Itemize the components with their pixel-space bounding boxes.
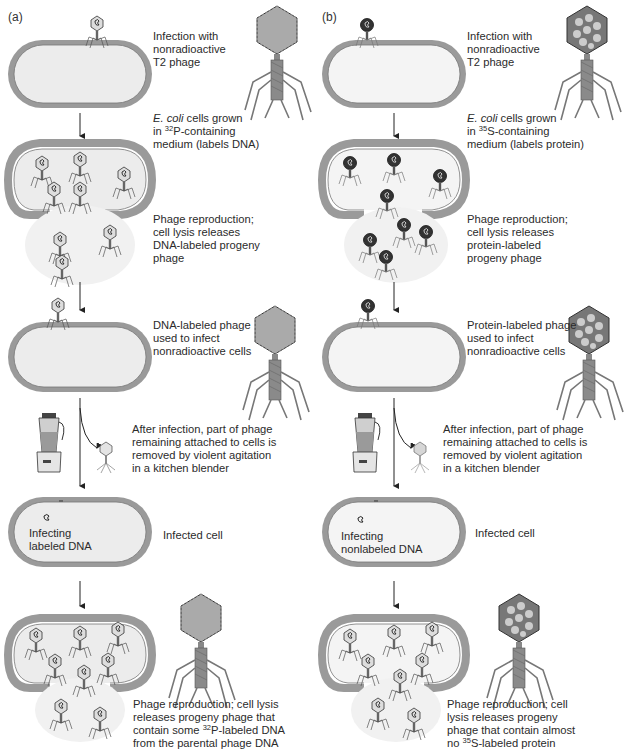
t2-phage-icon	[487, 594, 553, 708]
arrow-curved-icon	[394, 408, 411, 448]
blender-icon	[353, 413, 380, 472]
e-coli-cell-icon	[8, 322, 152, 392]
step-growth-text: E. coli cells grown in 35S-containing me…	[467, 112, 584, 151]
step-blender-text: After infection, part of phage remaining…	[132, 423, 276, 475]
t2-phage-icon	[169, 594, 235, 708]
e-coli-cell-icon	[8, 40, 152, 108]
step-reinfect-text: Protein-labeled phage used to infect non…	[467, 319, 576, 358]
e-coli-cell-icon	[322, 40, 466, 108]
step-blender-text: After infection, part of phage remaining…	[443, 423, 587, 475]
infecting-dna-label: Infecting nonlabeled DNA	[341, 530, 422, 556]
panel-label: (a)	[8, 10, 23, 24]
infecting-dna-label: Infecting labeled DNA	[29, 527, 92, 553]
panel-b-35s-experiment: (b) Infection with nonradioactive T2 pha…	[316, 0, 632, 750]
step-result-text: Phage reproduction; cell lysis releases …	[447, 698, 575, 750]
step-result-text: Phage reproduction; cell lysis releases …	[133, 698, 285, 750]
t2-phage-icon	[97, 442, 115, 473]
t2-phage-icon	[245, 6, 311, 120]
step-reproduction-text: Phage reproduction; cell lysis releases …	[467, 213, 568, 265]
blender-icon	[37, 413, 64, 472]
infected-cell-label: Infected cell	[475, 527, 535, 540]
e-coli-cell-icon	[322, 322, 466, 392]
t2-phage-icon	[243, 306, 309, 420]
step-growth-text: E. coli cells grown in 32P-containing me…	[153, 112, 259, 151]
infected-cell-label: Infected cell	[163, 529, 223, 542]
step-infection-text: Infection with nonradioactive T2 phage	[467, 30, 540, 69]
step-reproduction-text: Phage reproduction; cell lysis releases …	[153, 213, 260, 265]
t2-phage-icon	[411, 442, 429, 473]
panel-label: (b)	[322, 10, 337, 24]
step-infection-text: Infection with nonradioactive T2 phage	[153, 30, 226, 69]
arrow-curved-icon	[80, 408, 97, 448]
t2-phage-icon	[555, 6, 621, 120]
step-reinfect-text: DNA-labeled phage used to infect nonradi…	[153, 319, 251, 358]
panel-a-32p-experiment: (a) Infection with nonradioactive T2 pha…	[0, 0, 316, 750]
